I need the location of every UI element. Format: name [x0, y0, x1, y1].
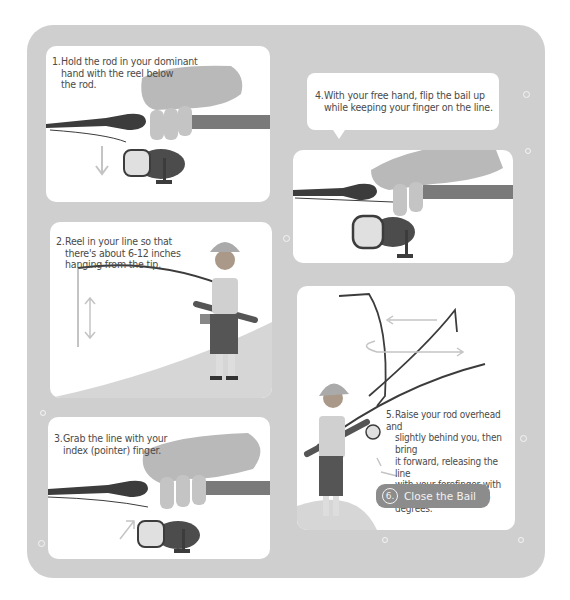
- step-4-caption: 4.With your free hand, flip the bail up …: [315, 90, 493, 113]
- step-6-number-badge: 6.: [382, 488, 398, 504]
- step-2-caption: 2.Reel in your line so that there's abou…: [56, 236, 181, 271]
- step-6-close-bail-label: 6. Close the Bail: [376, 484, 490, 508]
- bubble-decoration-icon: [520, 435, 527, 442]
- bubble-decoration-icon: [382, 537, 388, 543]
- step-5-panel: 5.Raise your rod overhead and slightly b…: [297, 286, 515, 530]
- bubble-decoration-icon: [525, 148, 531, 154]
- bubble-decoration-icon: [523, 91, 530, 98]
- bubble-decoration-icon: [518, 537, 524, 543]
- step-4-panel: [293, 150, 513, 263]
- step-4-speech-bubble: 4.With your free hand, flip the bail up …: [307, 73, 499, 130]
- step-3-caption: 3.Grab the line with your index (pointer…: [54, 433, 167, 456]
- bubble-decoration-icon: [40, 410, 46, 416]
- step-2-panel: 2.Reel in your line so that there's abou…: [50, 222, 272, 398]
- step-1-caption: 1.Hold the rod in your dominant hand wit…: [52, 56, 198, 91]
- bubble-decoration-icon: [38, 540, 45, 547]
- step-1-panel: 1.Hold the rod in your dominant hand wit…: [46, 46, 270, 202]
- flip-bail-illustration: [293, 150, 513, 263]
- step-6-text: Close the Bail: [404, 490, 476, 502]
- step-3-panel: 3.Grab the line with your index (pointer…: [48, 417, 270, 559]
- bubble-decoration-icon: [283, 235, 290, 242]
